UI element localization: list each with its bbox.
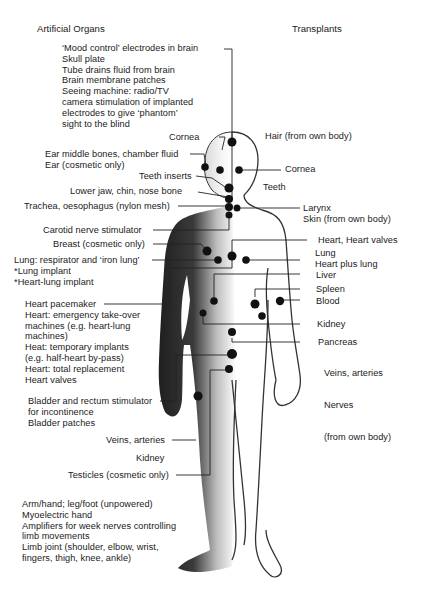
hair-transplant-label: Hair (from own body) — [265, 131, 352, 142]
liver-label: Liver — [316, 270, 336, 281]
lung-transplant-label: Lung Heart plus lung — [315, 248, 378, 270]
spleen-label: Spleen — [316, 284, 345, 295]
heading-artificial-organs: Artificial Organs — [37, 23, 105, 34]
right-body-outline — [232, 132, 300, 577]
pancreas-label: Pancreas — [318, 337, 357, 348]
ear-implants-label: Ear middle bones, chamber fluid Ear (cos… — [45, 149, 178, 171]
cornea-artificial-label: Cornea — [169, 132, 199, 143]
larynx-skin-label: Larynx Skin (from own body) — [303, 203, 391, 225]
heart-artificial-label: Heart pacemaker Heart: emergency take-ov… — [25, 299, 140, 385]
heart-transplant-label: Heart, Heart valves — [318, 235, 398, 246]
carotid-label: Carotid nerve stimulator — [43, 225, 142, 236]
cornea-transplant-label: Cornea — [285, 164, 315, 175]
nerves-label: Nerves — [324, 400, 353, 411]
brain-implants-label: ‘Mood control’ electrodes in brain Skull… — [62, 43, 198, 129]
veins-artificial-label: Veins, arteries — [106, 435, 165, 446]
nerves-note-label: (from own body) — [324, 432, 391, 443]
teeth-transplant-label: Teeth — [263, 182, 286, 193]
heading-transplants: Transplants — [292, 23, 342, 34]
lower-jaw-label: Lower jaw, chin, nose bone — [70, 186, 182, 197]
veins-transplant-label: Veins, arteries — [324, 368, 383, 379]
testicles-label: Testicles (cosmetic only) — [68, 470, 169, 481]
lung-artificial-label: Lung: respirator and ‘iron lung’ *Lung i… — [14, 255, 140, 287]
kidney-artificial-label: Kidney — [136, 453, 164, 464]
teeth-inserts-label: Teeth inserts — [139, 171, 192, 182]
limb-prosthetics-label: Arm/hand; leg/foot (unpowered) Myoelectr… — [22, 499, 176, 564]
kidney-transplant-label: Kidney — [317, 319, 345, 330]
trachea-label: Trachea, oesophagus (nylon mesh) — [24, 201, 170, 212]
breast-label: Breast (cosmetic only) — [53, 239, 145, 250]
bladder-label: Bladder and rectum stimulator for incont… — [28, 396, 152, 428]
blood-label: Blood — [316, 296, 340, 307]
